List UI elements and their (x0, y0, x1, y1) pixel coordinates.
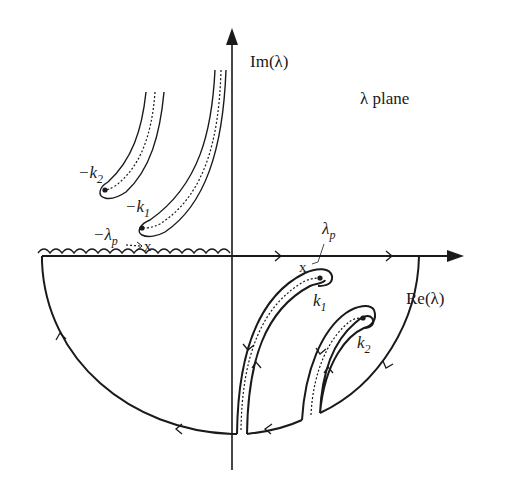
branch-cut-k1 (241, 278, 320, 430)
label-neg-lambda-p: −λp (93, 225, 118, 248)
branch-point-neg-k2 (102, 187, 107, 192)
pole-marker-neg-lambda-p: x (144, 238, 152, 254)
contour-diagram: Im(λ) Re(λ) λ plane −k2 −k1 −λp x λp x k… (0, 0, 516, 488)
direction-arrow-icon (383, 361, 393, 368)
pointer-neg-lambda-p (126, 245, 140, 246)
label-neg-k1: −k1 (125, 197, 150, 220)
branch-point-k1 (317, 275, 322, 280)
label-k1: k1 (313, 291, 327, 314)
upper-keyhole-neg-k2 (100, 92, 164, 199)
pointer-lambda-p (312, 244, 324, 264)
real-axis-arrow-icon (447, 250, 464, 262)
real-axis-label: Re(λ) (406, 289, 444, 308)
label-neg-k2: −k2 (78, 163, 103, 186)
branch-point-k2 (360, 315, 365, 320)
label-lambda-p: λp (321, 219, 335, 242)
negative-real-axis-wavy-cut (38, 249, 230, 253)
direction-arrow-icon (252, 362, 261, 368)
real-axis (42, 250, 464, 262)
direction-arrow-icon (265, 424, 272, 434)
upper-keyhole-neg-k1 (139, 70, 226, 236)
imag-axis-arrow-icon (226, 28, 238, 45)
imaginary-axis (226, 28, 238, 470)
label-k2: k2 (357, 333, 371, 356)
plane-label: λ plane (360, 89, 409, 108)
branch-point-neg-k1 (139, 225, 144, 230)
imag-axis-label: Im(λ) (250, 52, 288, 71)
pole-marker-lambda-p: x (299, 259, 307, 275)
